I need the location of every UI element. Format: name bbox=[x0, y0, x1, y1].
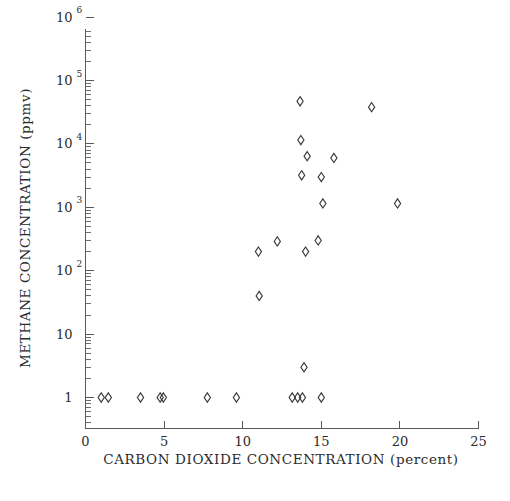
y-tick-exponent: 5 bbox=[77, 69, 83, 79]
x-tick-label: 10 bbox=[234, 434, 251, 449]
y-tick-exponent: 2 bbox=[77, 259, 83, 269]
y-tick-label: 10 bbox=[56, 10, 73, 25]
y-tick-label: 10 bbox=[56, 263, 73, 278]
y-tick-label: 1 bbox=[64, 390, 72, 405]
y-axis-ticks bbox=[86, 17, 94, 423]
data-point bbox=[304, 152, 310, 161]
y-axis-title: METHANE CONCENTRATION (ppmv) bbox=[17, 88, 33, 368]
data-point bbox=[233, 393, 239, 402]
plot-canvas: 110102103104105106 0510152025 CARBON DIO… bbox=[0, 0, 510, 501]
y-tick-exponent: 4 bbox=[77, 132, 83, 142]
y-tick-label: 10 bbox=[56, 327, 73, 342]
x-tick-label: 15 bbox=[313, 434, 330, 449]
data-point bbox=[204, 393, 210, 402]
y-tick-exponent: 3 bbox=[77, 195, 83, 205]
x-axis-tick-labels: 0510152025 bbox=[81, 434, 486, 449]
plot-axes bbox=[86, 29, 479, 429]
x-tick-label: 25 bbox=[470, 434, 487, 449]
data-point bbox=[274, 237, 280, 246]
y-tick-exponent: 6 bbox=[77, 5, 83, 15]
y-axis-tick-labels: 110102103104105106 bbox=[56, 5, 83, 405]
data-point bbox=[297, 97, 303, 106]
data-point bbox=[298, 135, 304, 144]
x-tick-label: 20 bbox=[392, 434, 409, 449]
data-point bbox=[315, 236, 321, 245]
x-axis-ticks bbox=[86, 421, 479, 429]
data-point bbox=[318, 172, 324, 181]
data-point bbox=[318, 393, 324, 402]
x-axis-title: CARBON DIOXIDE CONCENTRATION (percent) bbox=[103, 451, 458, 467]
scatter-plot-figure: 110102103104105106 0510152025 CARBON DIO… bbox=[0, 0, 510, 501]
data-point bbox=[394, 199, 400, 208]
data-point bbox=[105, 393, 111, 402]
data-point bbox=[137, 393, 143, 402]
x-tick-label: 0 bbox=[81, 434, 89, 449]
data-point bbox=[301, 363, 307, 372]
data-point bbox=[302, 247, 308, 256]
data-point bbox=[98, 393, 104, 402]
y-tick-label: 10 bbox=[56, 73, 73, 88]
data-point-group bbox=[98, 97, 401, 402]
y-tick-label: 10 bbox=[56, 136, 73, 151]
data-point bbox=[369, 103, 375, 112]
data-point bbox=[331, 153, 337, 162]
data-point bbox=[256, 291, 262, 300]
data-point bbox=[255, 247, 261, 256]
y-tick-label: 10 bbox=[56, 200, 73, 215]
data-point bbox=[320, 199, 326, 208]
x-tick-label: 5 bbox=[160, 434, 168, 449]
data-point bbox=[299, 171, 305, 180]
